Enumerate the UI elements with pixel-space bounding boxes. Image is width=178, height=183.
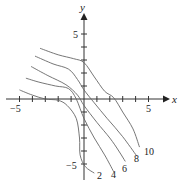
curve-label-10: 10 <box>144 146 154 157</box>
x-tick-label-5: 5 <box>146 103 151 114</box>
y-axis-arrow-icon <box>81 13 88 20</box>
x-axis-label: x <box>171 93 177 105</box>
level-curves <box>20 48 140 173</box>
chart-canvas: x y −5 5 5 −5 2 4 6 8 10 <box>0 0 178 183</box>
y-tick-label-neg5: −5 <box>66 160 77 171</box>
level-curve-4 <box>26 78 114 172</box>
x-axis-arrow-icon <box>163 96 170 103</box>
level-curve-2 <box>20 90 95 173</box>
curve-label-6: 6 <box>122 163 127 174</box>
axes <box>6 18 166 180</box>
x-tick-label-neg5: −5 <box>10 103 21 114</box>
y-tick-label-5: 5 <box>73 29 78 40</box>
y-axis-label: y <box>79 1 85 13</box>
curve-label-2: 2 <box>97 170 102 181</box>
level-curve-8 <box>35 56 137 156</box>
curve-label-8: 8 <box>134 153 139 164</box>
curve-label-4: 4 <box>111 169 116 180</box>
